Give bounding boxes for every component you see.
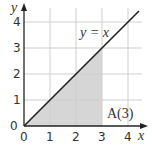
y-tick-2: 2 bbox=[13, 67, 21, 81]
x-tick-4: 4 bbox=[124, 130, 132, 144]
area-label: A(3) bbox=[107, 106, 134, 122]
y-axis-arrow-icon bbox=[21, 3, 27, 11]
graph: 0 1 2 3 4 0 1 2 3 4 x y y = x A(3) bbox=[0, 0, 152, 146]
x-tick-3: 3 bbox=[98, 130, 106, 144]
x-axis-label: x bbox=[137, 128, 145, 143]
line-equation-label: y = x bbox=[78, 25, 110, 40]
y-tick-3: 3 bbox=[13, 41, 21, 55]
y-tick-4: 4 bbox=[13, 15, 21, 29]
y-tick-0: 0 bbox=[10, 119, 18, 133]
y-tick-1: 1 bbox=[13, 93, 21, 107]
y-axis-label: y bbox=[9, 0, 18, 15]
x-tick-0: 0 bbox=[20, 130, 28, 144]
x-tick-1: 1 bbox=[46, 130, 54, 144]
x-tick-2: 2 bbox=[72, 130, 80, 144]
